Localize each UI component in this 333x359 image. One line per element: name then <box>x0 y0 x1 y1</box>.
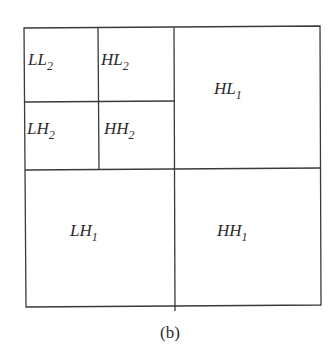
label-LL2: LL2 <box>27 50 53 73</box>
level2-vertical-divider <box>98 28 99 169</box>
label-HH1: HH1 <box>216 221 248 244</box>
label-HL1: HL1 <box>213 79 242 102</box>
level2-horizontal-divider <box>24 101 174 102</box>
level1-horizontal-divider <box>25 168 320 170</box>
label-LH1: LH1 <box>69 221 98 244</box>
subband-diagram: LL2 HL2 LH2 HH2 HL1 LH1 HH1 (b) <box>0 0 333 359</box>
label-HH2: HH2 <box>103 119 135 142</box>
label-LH2: LH2 <box>26 119 55 142</box>
label-HL2: HL2 <box>100 50 129 73</box>
outer-frame <box>24 26 321 307</box>
figure-caption: (b) <box>160 323 180 342</box>
